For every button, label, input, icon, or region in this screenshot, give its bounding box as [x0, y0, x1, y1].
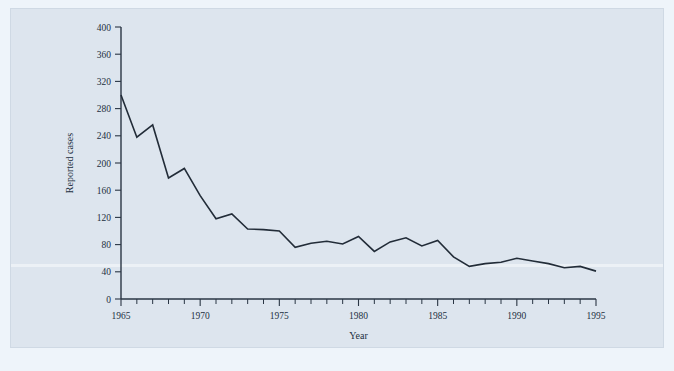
chart-plate: 04080120160200240280320360400 1965197019…	[10, 8, 664, 348]
line-chart: 04080120160200240280320360400 1965197019…	[11, 9, 665, 349]
y-tick-label: 280	[97, 104, 112, 114]
y-tick-label: 200	[97, 159, 112, 169]
x-axis-title: Year	[349, 330, 368, 341]
x-tick-label: 1975	[270, 311, 289, 321]
y-axis-ticks: 04080120160200240280320360400	[97, 23, 121, 305]
y-tick-label: 40	[102, 267, 112, 277]
x-tick-label: 1995	[587, 311, 606, 321]
y-tick-label: 160	[97, 186, 112, 196]
y-tick-label: 320	[97, 77, 112, 87]
y-tick-label: 400	[97, 23, 112, 33]
y-tick-label: 120	[97, 213, 112, 223]
y-tick-label: 240	[97, 131, 112, 141]
x-tick-label: 1965	[112, 311, 131, 321]
x-axis-ticks: 1965197019751980198519901995	[112, 299, 606, 321]
y-axis-title: Reported cases	[64, 133, 75, 193]
x-tick-label: 1980	[349, 311, 368, 321]
x-tick-label: 1970	[191, 311, 210, 321]
y-tick-label: 80	[102, 240, 112, 250]
x-tick-label: 1990	[507, 311, 526, 321]
y-tick-label: 360	[97, 50, 112, 60]
figure-container: 04080120160200240280320360400 1965197019…	[0, 0, 674, 371]
y-tick-label: 0	[106, 295, 111, 305]
x-tick-label: 1985	[428, 311, 447, 321]
data-series-line	[121, 95, 596, 271]
